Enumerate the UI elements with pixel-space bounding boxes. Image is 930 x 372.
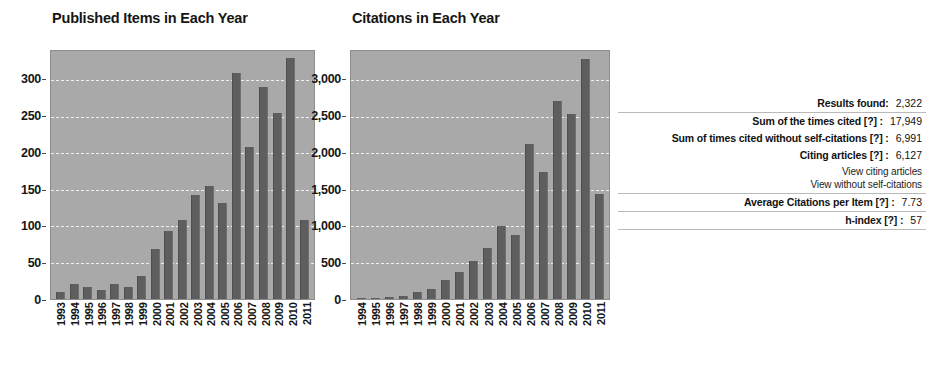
bar: [581, 59, 590, 299]
bar: [137, 276, 146, 299]
x-tick-label: 1998: [412, 302, 421, 362]
x-tick-label: 1993: [55, 302, 64, 362]
y-tick-mark: [342, 263, 346, 264]
bar: [124, 287, 133, 299]
citations-y-axis: 05001,0001,5002,0002,5003,000: [300, 50, 346, 300]
stat-row-h-index: h-index [?] : 57: [618, 212, 926, 229]
stat-label: Results found:: [817, 97, 888, 109]
x-tick-label: 2009: [567, 302, 576, 362]
y-tick-mark: [342, 190, 346, 191]
y-tick-label: 3,000: [311, 72, 341, 86]
citations-chart-title: Citations in Each Year: [352, 10, 500, 26]
published-items-plot-area: [50, 50, 315, 300]
x-tick-label: 1996: [384, 302, 393, 362]
x-tick-label: 2009: [273, 302, 282, 362]
x-tick-label: 2004: [205, 302, 214, 362]
y-tick-mark: [42, 79, 46, 80]
bar: [511, 235, 520, 299]
y-tick-mark: [342, 116, 346, 117]
y-tick-label: 0: [34, 293, 41, 307]
stat-label: h-index [?] :: [845, 214, 903, 226]
bar: [595, 194, 604, 299]
y-tick-label: 50: [28, 256, 41, 270]
y-tick-mark: [342, 226, 346, 227]
bar: [413, 292, 422, 299]
stat-label: Sum of times cited without self-citation…: [672, 132, 889, 144]
bar: [441, 280, 450, 299]
y-tick-mark: [42, 153, 46, 154]
bar: [399, 296, 408, 299]
x-tick-label: 2007: [246, 302, 255, 362]
x-tick-label: 1995: [370, 302, 379, 362]
bar: [205, 186, 214, 299]
x-tick-label: 2008: [260, 302, 269, 362]
stat-row-average-citations-per-item: Average Citations per Item [?] : 7.73: [618, 194, 926, 211]
citations-x-axis: 1994199519961997199819992000200120022003…: [350, 302, 610, 362]
bar: [525, 144, 534, 299]
published-items-y-axis: 050100150200250300: [0, 50, 46, 300]
stat-label: Citing articles [?] :: [800, 149, 889, 161]
x-tick-label: 2011: [595, 302, 604, 362]
y-tick-mark: [342, 153, 346, 154]
bar: [110, 284, 119, 299]
x-tick-label: 2002: [178, 302, 187, 362]
x-tick-label: 2006: [525, 302, 534, 362]
x-tick-label: 1997: [398, 302, 407, 362]
x-tick-label: 1996: [96, 302, 105, 362]
x-tick-label: 1995: [83, 302, 92, 362]
view-citing-articles-link[interactable]: View citing articles: [618, 165, 922, 178]
stat-value: 57: [910, 214, 922, 226]
x-tick-label: 1999: [137, 302, 146, 362]
bar: [385, 297, 394, 299]
stat-row-citing-articles: Citing articles [?] : 6,127: [618, 147, 926, 164]
y-tick-mark: [342, 300, 346, 301]
y-tick-mark: [42, 300, 46, 301]
bar: [567, 114, 576, 299]
bar: [151, 249, 160, 299]
stat-row-results-found: Results found: 2,322: [618, 95, 926, 112]
y-tick-mark: [42, 263, 46, 264]
x-tick-label: 2006: [232, 302, 241, 362]
stat-row-sum-times-cited: Sum of the times cited [?] : 17,949: [618, 113, 926, 130]
y-tick-label: 1,500: [311, 183, 341, 197]
y-tick-label: 150: [21, 183, 41, 197]
x-tick-label: 2000: [440, 302, 449, 362]
stat-value: 6,991: [896, 132, 922, 144]
panel-divider: [618, 229, 926, 230]
citation-report-summary-panel: Results found: 2,322 Sum of the times ci…: [618, 95, 926, 230]
panel-links: View citing articles View without self-c…: [618, 164, 926, 193]
x-tick-label: 2004: [497, 302, 506, 362]
bar: [70, 284, 79, 299]
bar: [164, 231, 173, 299]
x-tick-label: 2007: [539, 302, 548, 362]
x-tick-label: 2005: [511, 302, 520, 362]
x-tick-label: 2005: [219, 302, 228, 362]
x-tick-label: 2001: [164, 302, 173, 362]
bar: [273, 113, 282, 299]
y-tick-label: 500: [321, 256, 341, 270]
stat-row-sum-times-cited-without-self-citations: Sum of times cited without self-citation…: [618, 130, 926, 147]
bar: [191, 195, 200, 299]
y-tick-mark: [42, 226, 46, 227]
x-tick-label: 1994: [356, 302, 365, 362]
bar: [539, 172, 548, 299]
x-tick-label: 1997: [110, 302, 119, 362]
bar: [56, 292, 65, 299]
y-tick-label: 100: [21, 219, 41, 233]
bar: [371, 298, 380, 299]
published-items-x-axis: 1993199419951996199719981999200020012002…: [50, 302, 315, 362]
published-items-chart-title: Published Items in Each Year: [52, 10, 248, 26]
y-tick-label: 2,500: [311, 109, 341, 123]
view-without-self-citations-link[interactable]: View without self-citations: [618, 178, 922, 191]
x-tick-label: 2000: [151, 302, 160, 362]
x-tick-label: 2010: [287, 302, 296, 362]
x-tick-label: 2010: [581, 302, 590, 362]
x-tick-label: 2003: [192, 302, 201, 362]
y-tick-label: 1,000: [311, 219, 341, 233]
bar: [469, 261, 478, 299]
x-tick-label: 1994: [69, 302, 78, 362]
bar: [357, 298, 366, 299]
bar: [232, 73, 241, 299]
published-items-bars: [51, 51, 314, 299]
stat-label: Average Citations per Item [?] :: [744, 196, 895, 208]
